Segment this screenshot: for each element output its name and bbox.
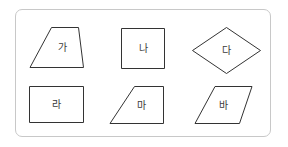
shape-ma: 마 (110, 87, 164, 124)
shape-na: 나 (122, 29, 165, 69)
shape-da: 다 (193, 28, 261, 74)
shape-label: 다 (222, 45, 231, 56)
shape-label: 가 (58, 42, 67, 53)
shape-label: 라 (52, 99, 61, 110)
shape-ra: 라 (30, 87, 84, 123)
shape-ga: 가 (30, 28, 84, 68)
shape-label: 바 (219, 100, 228, 111)
shape-ba: 바 (195, 87, 252, 124)
shape-label: 마 (137, 100, 146, 111)
shape-label: 나 (139, 43, 148, 54)
shapes-diagram: 가 나 다 라 마 바 (0, 0, 288, 147)
